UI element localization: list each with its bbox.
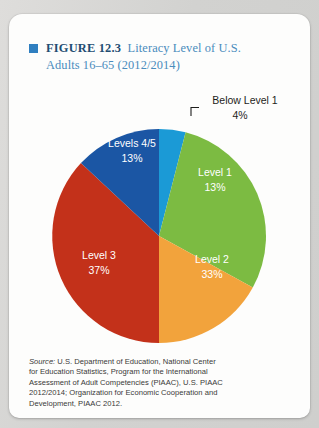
pie-chart: Below Level 1 4% Level 1 13% Level 2 33%… [9, 92, 310, 354]
pie-chart-svg: Below Level 1 4% Level 1 13% Level 2 33%… [9, 92, 310, 354]
source-line-1-rest: U.S. Department of Education, National C… [55, 357, 215, 366]
figure-caption-line1: Literacy Level of U.S. [121, 41, 241, 55]
figure-title-row: FIGURE 12.3 Literacy Level of U.S.Adults… [29, 40, 296, 73]
source-line-1: Source: U.S. Department of Education, Na… [29, 357, 296, 367]
blue-square-icon [29, 44, 38, 53]
source-prefix: Source: [29, 357, 55, 366]
pie-label-level-1: Level 1 [198, 166, 232, 178]
source-line-3: Assessment of Adult Competencies (PIAAC)… [29, 378, 296, 388]
pie-label-levels-4-5: Levels 4/5 [108, 137, 156, 149]
figure-title-text: FIGURE 12.3 Literacy Level of U.S.Adults… [46, 40, 241, 73]
source-line-4: 2012/2014; Organization for Economic Coo… [29, 388, 296, 398]
pie-label-below-level-1: Below Level 1 [212, 94, 278, 106]
pie-slices [52, 129, 266, 343]
below-level-1-leader-line [191, 108, 199, 117]
pie-value-level-1: 13% [204, 181, 225, 193]
source-line-5: Development, PIAAC 2012. [29, 399, 296, 409]
pie-value-level-2: 33% [201, 268, 222, 280]
pie-value-level-3: 37% [88, 264, 109, 276]
figure-caption-line1-text: Literacy Level of U.S. [128, 41, 241, 55]
pie-label-level-3: Level 3 [82, 249, 116, 261]
source-line-2: for Education Statistics, Program for th… [29, 367, 296, 377]
page-background: FIGURE 12.3 Literacy Level of U.S.Adults… [0, 0, 319, 428]
figure-caption-line2: Adults 16–65 (2012/2014) [46, 58, 180, 72]
pie-value-levels-4-5: 13% [121, 152, 142, 164]
source-note: Source: U.S. Department of Education, Na… [29, 357, 296, 409]
figure-number-label: FIGURE 12.3 [46, 41, 121, 55]
figure-card: FIGURE 12.3 Literacy Level of U.S.Adults… [9, 14, 310, 418]
figure-title-block: FIGURE 12.3 Literacy Level of U.S.Adults… [29, 40, 296, 73]
pie-label-level-2: Level 2 [195, 253, 229, 265]
pie-value-below-level-1: 4% [232, 109, 247, 121]
